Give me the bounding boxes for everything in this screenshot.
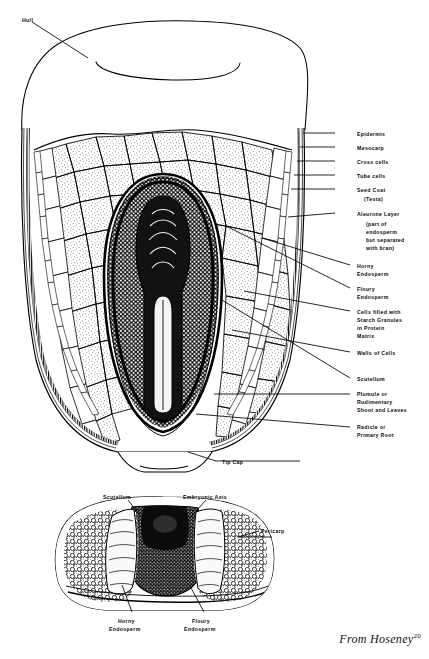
label-walls-of-cells: Walls of Cells — [357, 350, 395, 356]
credit-superscript: 20 — [413, 632, 421, 640]
label-floury-endosperm-cs-2: Endosperm — [184, 626, 216, 632]
credit-text: From Hoseney — [339, 632, 413, 646]
label-aleurone-note-4: with bran) — [366, 245, 394, 251]
cross-section — [50, 495, 285, 615]
label-aleurone-layer: Aleurone Layer — [357, 211, 400, 217]
label-tip-cap: Tip Cap — [222, 459, 243, 465]
label-plumule-1: Plumule or — [357, 391, 387, 397]
label-floury-endosperm-cs-1: Floury — [192, 618, 210, 624]
label-seed-coat: Seed Coat — [357, 187, 386, 193]
label-horny-endosperm-cs-2: Endosperm — [109, 626, 141, 632]
label-epidermis: Epidermis — [357, 131, 385, 137]
label-seed-coat-testa: (Testa) — [364, 196, 383, 202]
label-starch-granules-3: in Protein — [357, 325, 384, 331]
label-scutellum-cs: Scutellum — [103, 494, 131, 500]
label-starch-granules-2: Starch Granules — [357, 317, 402, 323]
figure-credit: From Hoseney20 — [339, 632, 421, 647]
label-radicle-2: Primary Root — [357, 432, 394, 438]
label-radicle-1: Radicle or — [357, 424, 386, 430]
label-aleurone-note-1: (part of — [366, 221, 387, 227]
label-aleurone-note-3: but separated — [366, 237, 405, 243]
label-mesocarp: Mesocarp — [357, 145, 384, 151]
label-cross-cells: Cross cells — [357, 159, 389, 165]
label-floury-endosperm: Floury — [357, 286, 375, 292]
label-embryonic-axis: Embryonic Axis — [183, 494, 227, 500]
label-horny-endosperm-2: Endosperm — [357, 271, 389, 277]
label-scutellum: Scutellum — [357, 376, 385, 382]
label-plumule-3: Shoot and Leaves — [357, 407, 407, 413]
label-horny-endosperm: Horny — [357, 263, 374, 269]
label-plumule-2: Rudimentary — [357, 399, 393, 405]
label-hull: Hull — [22, 17, 33, 23]
label-pericarp: Pericarp — [261, 528, 285, 534]
label-tube-cells: Tube cells — [357, 173, 385, 179]
label-starch-granules-1: Cells filled with — [357, 309, 401, 315]
label-aleurone-note-2: endosperm — [366, 229, 397, 235]
label-starch-granules-4: Matrix — [357, 333, 374, 339]
label-floury-endosperm-2: Endosperm — [357, 294, 389, 300]
label-horny-endosperm-cs-1: Horny — [118, 618, 135, 624]
